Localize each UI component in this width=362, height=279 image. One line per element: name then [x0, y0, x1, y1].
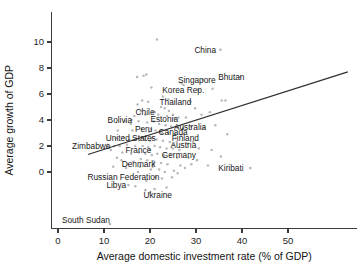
point-label: Korea Rep.: [162, 85, 204, 95]
x-axis-tick-label: 0: [55, 235, 60, 246]
point-label: Libya: [106, 180, 126, 190]
point-label: South Sudan: [62, 215, 110, 225]
data-point: [117, 129, 120, 132]
data-point: [163, 107, 166, 110]
y-axis-tick-label: 10: [33, 36, 44, 47]
y-axis-tick-label: 6: [39, 88, 44, 99]
data-point: [221, 99, 224, 102]
x-axis-tick-label: 50: [283, 235, 294, 246]
data-point-labeled: [127, 184, 130, 187]
data-point: [185, 116, 188, 119]
data-point: [163, 171, 166, 174]
data-point: [160, 162, 163, 165]
data-point: [198, 147, 201, 150]
data-point: [153, 145, 156, 148]
data-point: [209, 111, 212, 114]
data-point: [176, 172, 179, 175]
data-point: [220, 155, 223, 158]
point-label: Germany: [162, 150, 197, 160]
data-point: [179, 164, 182, 167]
data-point: [171, 176, 174, 179]
x-axis-title: Average domestic investment rate (% of G…: [97, 250, 312, 262]
data-point: [137, 120, 140, 123]
data-point: [165, 186, 168, 189]
data-point: [161, 177, 164, 180]
data-point: [207, 164, 210, 167]
data-point: [136, 76, 139, 79]
x-axis-tick-label: 40: [237, 235, 248, 246]
data-point: [168, 110, 171, 113]
point-label: Singapore: [178, 75, 216, 85]
data-point: [173, 169, 176, 172]
data-point: [134, 185, 137, 188]
point-label: China: [194, 45, 216, 55]
x-axis-tick-label: 10: [99, 235, 110, 246]
point-label: Denmark: [122, 159, 157, 169]
point-label: France: [126, 145, 152, 155]
data-point: [158, 168, 161, 171]
data-point: [196, 159, 199, 162]
data-point: [200, 114, 203, 117]
data-point: [190, 163, 193, 166]
data-point: [210, 149, 213, 152]
point-label: Kiribati: [218, 163, 244, 173]
point-labels-layer: ChinaSingaporeBhutanKorea Rep.ThailandCh…: [62, 45, 245, 225]
data-point: [214, 124, 217, 127]
point-label: Bhutan: [218, 72, 245, 82]
data-point: [112, 166, 115, 169]
point-label: United States: [106, 133, 156, 143]
data-point: [142, 75, 145, 78]
data-point: [131, 129, 134, 132]
data-point: [224, 99, 227, 102]
y-axis-tick-label: 0: [39, 166, 44, 177]
data-point: [121, 151, 124, 154]
point-label: Bolivia: [108, 115, 133, 125]
y-axis-title: Average growth of GDP: [3, 65, 15, 176]
data-point: [136, 103, 139, 106]
data-point-labeled: [249, 167, 252, 170]
x-axis-tick-label: 30: [191, 235, 202, 246]
y-axis-tick-label: 8: [39, 62, 44, 73]
data-point: [154, 129, 157, 132]
data-point-labeled: [219, 48, 222, 51]
data-point: [159, 146, 162, 149]
plot-canvas: 010203040501086420 ChinaSingaporeBhutanK…: [0, 0, 362, 279]
data-point: [156, 153, 159, 156]
data-point: [226, 133, 229, 136]
point-label: Austria: [170, 140, 196, 150]
data-point: [147, 101, 150, 104]
data-point: [116, 156, 119, 159]
x-axis-tick-label: 20: [145, 235, 156, 246]
data-point: [194, 107, 197, 110]
data-point: [184, 167, 187, 170]
data-point: [166, 163, 169, 166]
point-label: Thailand: [159, 97, 191, 107]
data-point: [150, 86, 153, 89]
data-point: [145, 73, 148, 76]
y-axis-tick-label: 4: [39, 114, 44, 125]
data-point: [211, 88, 214, 91]
y-axis-tick-label: 2: [39, 140, 44, 151]
point-label: Zimbabwe: [72, 141, 111, 151]
data-point: [156, 38, 159, 41]
data-point: [162, 140, 165, 143]
scatter-chart-figure: 010203040501086420 ChinaSingaporeBhutanK…: [0, 0, 362, 279]
point-label: Ukraine: [143, 190, 172, 200]
data-point: [141, 99, 144, 102]
